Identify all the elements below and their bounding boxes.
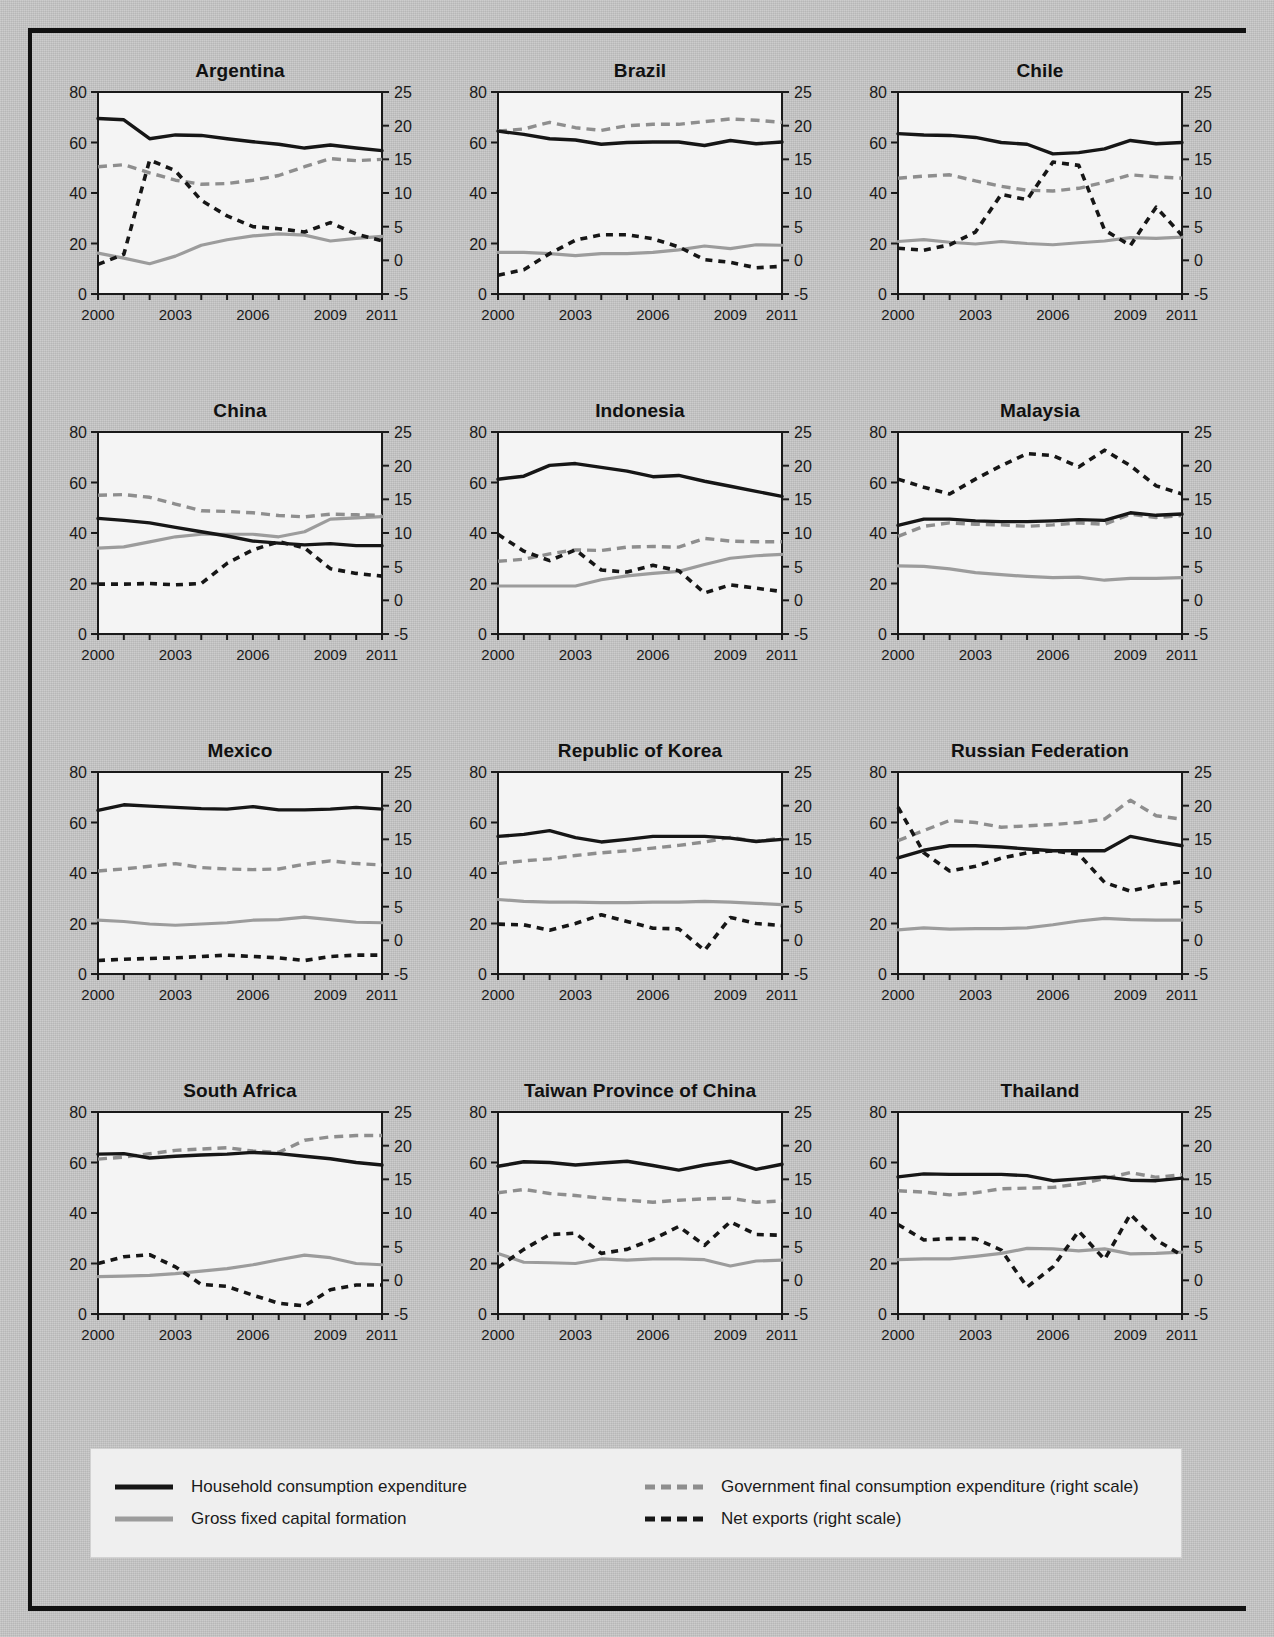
y-axis-label-right: 25 xyxy=(394,1104,412,1121)
legend-item-household: Household consumption expenditure xyxy=(91,1477,645,1497)
y-axis-label-left: 40 xyxy=(69,185,87,202)
y-axis-label-right: 15 xyxy=(794,831,812,848)
y-axis-label-left: 20 xyxy=(469,236,487,253)
y-axis-label-right: 0 xyxy=(1194,1272,1203,1289)
y-axis-label-right: 0 xyxy=(1194,932,1203,949)
x-axis-label: 2006 xyxy=(636,646,669,663)
x-axis-label: 2000 xyxy=(881,986,914,1003)
x-axis-label: 2006 xyxy=(1036,1326,1069,1343)
y-axis-label-right: 25 xyxy=(1194,424,1212,441)
panel-title: South Africa xyxy=(40,1080,440,1102)
y-axis-label-left: 40 xyxy=(869,525,887,542)
y-axis-label-left: 80 xyxy=(469,1104,487,1121)
chart-panel-russian-federation: Russian Federation020406080-505101520252… xyxy=(840,732,1240,1072)
x-axis-label: 2000 xyxy=(881,1326,914,1343)
y-axis-label-right: 0 xyxy=(794,932,803,949)
y-axis-label-right: 10 xyxy=(394,1205,412,1222)
y-axis-label-right: 5 xyxy=(1194,219,1203,236)
top-rule xyxy=(28,28,1246,33)
x-axis-label: 2000 xyxy=(81,646,114,663)
chart-panel-china: China020406080-5051015202520002003200620… xyxy=(40,392,440,732)
chart-panel-argentina: Argentina020406080-505101520252000200320… xyxy=(40,52,440,392)
plot-area: 020406080-505101520252000200320062009201… xyxy=(440,1106,840,1358)
x-axis-label: 2003 xyxy=(959,306,992,323)
chart-panel-malaysia: Malaysia020406080-5051015202520002003200… xyxy=(840,392,1240,732)
y-axis-label-right: 15 xyxy=(1194,831,1212,848)
y-axis-label-right: 20 xyxy=(1194,798,1212,815)
y-axis-label-left: 20 xyxy=(69,236,87,253)
y-axis-label-left: 20 xyxy=(469,1256,487,1273)
panel-title: Mexico xyxy=(40,740,440,762)
legend-label-government: Government final consumption expenditure… xyxy=(721,1477,1139,1497)
y-axis-label-left: 60 xyxy=(869,815,887,832)
y-axis-label-right: -5 xyxy=(794,626,808,643)
x-axis-label: 2000 xyxy=(881,306,914,323)
y-axis-label-right: 25 xyxy=(394,84,412,101)
y-axis-label-right: -5 xyxy=(394,626,408,643)
x-axis-label: 2011 xyxy=(766,306,798,323)
y-axis-label-left: 60 xyxy=(69,475,87,492)
legend-line-government-icon xyxy=(645,1480,703,1494)
y-axis-label-right: 15 xyxy=(794,1171,812,1188)
x-axis-label: 2006 xyxy=(1036,306,1069,323)
y-axis-label-right: 20 xyxy=(1194,118,1212,135)
panel-title: Indonesia xyxy=(440,400,840,422)
x-axis-label: 2000 xyxy=(81,306,114,323)
y-axis-label-right: 15 xyxy=(394,1171,412,1188)
y-axis-label-right: 10 xyxy=(794,185,812,202)
panel-title: Brazil xyxy=(440,60,840,82)
chart-panel-taiwan-province-of-china: Taiwan Province of China020406080-505101… xyxy=(440,1072,840,1412)
panel-title: China xyxy=(40,400,440,422)
y-axis-label-right: 0 xyxy=(394,932,403,949)
x-axis-label: 2006 xyxy=(636,986,669,1003)
plot-area: 020406080-505101520252000200320062009201… xyxy=(440,426,840,678)
y-axis-label-left: 40 xyxy=(469,865,487,882)
x-axis-label: 2009 xyxy=(314,646,347,663)
y-axis-label-right: 20 xyxy=(394,798,412,815)
chart-panel-republic-of-korea: Republic of Korea020406080-5051015202520… xyxy=(440,732,840,1072)
panel-grid: Argentina020406080-505101520252000200320… xyxy=(40,52,1240,1412)
y-axis-label-left: 0 xyxy=(78,1306,87,1323)
x-axis-label: 2009 xyxy=(314,306,347,323)
y-axis-label-right: 5 xyxy=(794,559,803,576)
y-axis-label-right: -5 xyxy=(1194,626,1208,643)
x-axis-label: 2006 xyxy=(236,306,269,323)
x-axis-label: 2000 xyxy=(881,646,914,663)
y-axis-label-right: -5 xyxy=(394,1306,408,1323)
plot-frame xyxy=(898,92,1182,294)
y-axis-label-left: 80 xyxy=(869,424,887,441)
y-axis-label-right: 20 xyxy=(794,458,812,475)
y-axis-label-right: 25 xyxy=(794,1104,812,1121)
legend-line-household-icon xyxy=(115,1480,173,1494)
x-axis-label: 2003 xyxy=(559,646,592,663)
y-axis-label-left: 60 xyxy=(69,815,87,832)
y-axis-label-left: 40 xyxy=(469,525,487,542)
y-axis-label-left: 20 xyxy=(469,916,487,933)
y-axis-label-left: 0 xyxy=(78,966,87,983)
x-axis-label: 2011 xyxy=(766,646,798,663)
legend-item-netexports: Net exports (right scale) xyxy=(645,1509,901,1529)
x-axis-label: 2000 xyxy=(481,646,514,663)
chart-panel-indonesia: Indonesia020406080-505101520252000200320… xyxy=(440,392,840,732)
plot-area: 020406080-505101520252000200320062009201… xyxy=(40,1106,440,1358)
x-axis-label: 2009 xyxy=(314,986,347,1003)
y-axis-label-left: 80 xyxy=(869,764,887,781)
y-axis-label-right: 15 xyxy=(394,151,412,168)
x-axis-label: 2003 xyxy=(159,646,192,663)
y-axis-label-left: 40 xyxy=(69,1205,87,1222)
x-axis-label: 2003 xyxy=(959,986,992,1003)
chart-legend: Household consumption expenditure Govern… xyxy=(90,1448,1182,1558)
legend-label-household: Household consumption expenditure xyxy=(191,1477,467,1497)
x-axis-label: 2006 xyxy=(1036,986,1069,1003)
x-axis-label: 2006 xyxy=(236,1326,269,1343)
y-axis-label-left: 60 xyxy=(469,135,487,152)
chart-panel-thailand: Thailand020406080-5051015202520002003200… xyxy=(840,1072,1240,1412)
x-axis-label: 2011 xyxy=(1166,646,1198,663)
plot-frame xyxy=(498,432,782,634)
y-axis-label-left: 0 xyxy=(878,286,887,303)
y-axis-label-right: 5 xyxy=(394,559,403,576)
chart-panel-chile: Chile020406080-5051015202520002003200620… xyxy=(840,52,1240,392)
y-axis-label-left: 0 xyxy=(878,626,887,643)
y-axis-label-right: 0 xyxy=(1194,252,1203,269)
plot-frame xyxy=(498,92,782,294)
